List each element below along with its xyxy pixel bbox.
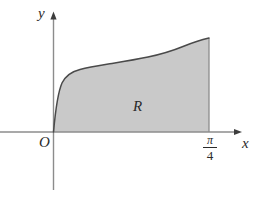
x-axis-label: x — [242, 136, 249, 151]
y-axis-label: y — [38, 6, 45, 21]
origin-label: O — [39, 135, 50, 150]
fraction-denominator: 4 — [199, 148, 221, 163]
x-axis-arrowhead — [234, 129, 242, 135]
fraction-numerator: π — [199, 134, 221, 147]
shaded-region-R — [54, 38, 210, 132]
x-tick-label-pi-over-4: π 4 — [199, 134, 221, 163]
region-label-R: R — [133, 99, 142, 114]
y-axis-arrowhead — [50, 12, 56, 20]
math-diagram-figure: y x O R π 4 — [0, 0, 274, 199]
